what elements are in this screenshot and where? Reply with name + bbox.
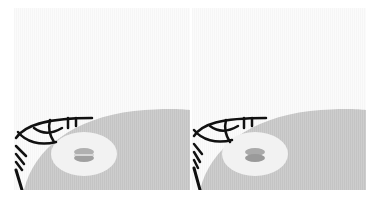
capsule-bottom — [245, 154, 265, 162]
image-panel-left — [14, 8, 190, 190]
image-panel-right — [192, 8, 366, 190]
eye-graphic-right — [192, 8, 366, 190]
eye-graphic-left — [14, 8, 190, 190]
